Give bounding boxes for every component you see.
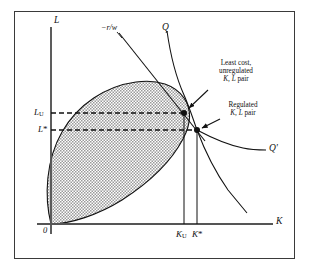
isoquant-label-q: Q	[162, 22, 169, 33]
annotation-regulated-math: K, L	[230, 109, 242, 117]
isoquant-label-q-prime: Q'	[269, 143, 278, 154]
annotation-least-cost-line1: Least cost,	[203, 59, 269, 67]
x-axis-label: K	[276, 216, 282, 227]
feasible-region-shading	[47, 81, 189, 224]
annotation-least-cost-line3: K, L pair	[203, 75, 269, 83]
annotation-regulated-line2: K, L pair	[212, 109, 274, 117]
point-marker-unregulated	[181, 110, 187, 116]
annotation-regulated-line1: Regulated	[212, 101, 274, 109]
isoquant-curve-q-prime	[197, 130, 266, 150]
y-tick-label-lu: LU	[34, 107, 44, 118]
annotation-least-cost-math: K, L	[223, 75, 235, 83]
y-tick-lu-sub: U	[39, 110, 44, 117]
annotation-least-cost-line2: unregulated	[203, 67, 269, 75]
x-tick-kstar-sub: *	[198, 229, 203, 239]
x-tick-ku-sub: U	[182, 232, 187, 239]
y-tick-label-lstar: L*	[38, 124, 48, 134]
origin-label: 0	[43, 226, 47, 236]
point-marker-regulated	[194, 127, 200, 133]
annotation-least-cost-tail: pair	[236, 75, 249, 83]
x-tick-label-ku: KU	[176, 229, 187, 240]
isocost-slope-label: −r/w	[101, 24, 117, 33]
y-axis-label: L	[54, 15, 59, 26]
x-tick-label-kstar: K*	[192, 229, 203, 239]
y-tick-lstar-sub: *	[43, 124, 48, 134]
annotation-regulated: Regulated K, L pair	[212, 101, 274, 117]
callout-arrow-regulated	[202, 119, 220, 128]
callout-arrow-least-cost	[189, 90, 208, 108]
annotation-regulated-tail: pair	[243, 109, 256, 117]
annotation-least-cost: Least cost, unregulated K, L pair	[203, 59, 269, 83]
figure-container: L K 0 LU L* KU K* −r/w Q Q' Least cost, …	[0, 0, 309, 276]
